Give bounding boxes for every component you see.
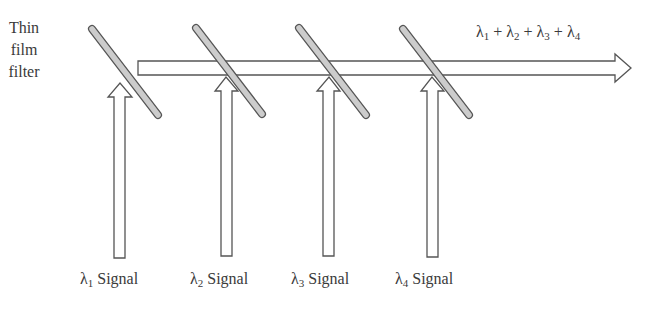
subscript: 2 (198, 277, 204, 289)
output-label: λ1 + λ2 + λ3 + λ4 (476, 23, 580, 42)
subscript: 3 (544, 30, 550, 42)
diagram-canvas (0, 0, 659, 310)
filter-label: Thin film filter (4, 17, 44, 83)
signal-text: Signal (97, 270, 138, 287)
subscript: 1 (88, 277, 94, 289)
plus-operator: + (524, 23, 533, 40)
input-arrow-3 (317, 77, 340, 256)
lambda-symbol: λ (567, 23, 575, 40)
signal-label-1: λ1 Signal (80, 270, 138, 289)
subscript: 4 (575, 30, 581, 42)
filter-label-line: filter (4, 61, 44, 83)
signal-label-3: λ3 Signal (291, 270, 349, 289)
subscript: 2 (514, 30, 520, 42)
input-arrow-1 (108, 83, 132, 258)
signal-label-2: λ2 Signal (190, 270, 248, 289)
lambda-symbol: λ (80, 270, 88, 287)
signal-text: Signal (412, 270, 453, 287)
filter-label-line: film (4, 39, 44, 61)
signal-label-4: λ4 Signal (395, 270, 453, 289)
plus-operator: + (554, 23, 563, 40)
signal-text: Signal (207, 270, 248, 287)
subscript: 1 (484, 30, 490, 42)
subscript: 4 (403, 277, 409, 289)
lambda-symbol: λ (395, 270, 403, 287)
input-arrow-2 (215, 77, 238, 256)
lambda-symbol: λ (190, 270, 198, 287)
lambda-symbol: λ (291, 270, 299, 287)
input-arrow-4 (421, 77, 444, 257)
plus-operator: + (493, 23, 502, 40)
signal-text: Signal (308, 270, 349, 287)
filter-label-line: Thin (4, 17, 44, 39)
lambda-symbol: λ (476, 23, 484, 40)
lambda-symbol: λ (506, 23, 514, 40)
output-arrow (138, 54, 631, 82)
subscript: 3 (299, 277, 305, 289)
